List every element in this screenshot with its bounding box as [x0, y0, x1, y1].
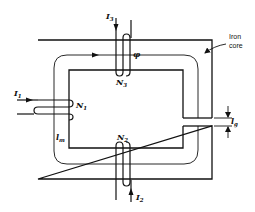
- current-i1-label: I1: [13, 88, 22, 99]
- winding-n1-label: N1: [75, 100, 87, 111]
- current-i1-arrow-icon: [26, 98, 33, 103]
- mean-length-label: lm: [56, 132, 65, 143]
- winding-n1-coil: [34, 100, 73, 120]
- winding-n2-label: N2: [116, 132, 128, 143]
- winding-n3: [114, 18, 132, 76]
- current-i3-arrow-icon: [114, 24, 119, 31]
- current-i3-label: I3: [105, 11, 114, 22]
- current-i2-label: I2: [135, 192, 144, 203]
- gap-dimension: [214, 106, 232, 138]
- current-i2-arrow-icon: [129, 188, 134, 195]
- core-outer-outline: [38, 40, 212, 179]
- winding-n3-label: N3: [115, 77, 127, 88]
- flux-arrow-icon: [92, 53, 99, 58]
- flux-label: φ: [133, 49, 141, 59]
- iron-core-label-line2: core: [229, 42, 243, 49]
- magnetic-circuit-diagram: Iron core φ I3 N3 I1 N1 lm N2 I2 lg: [0, 0, 255, 212]
- iron-core-label-line1: Iron: [229, 33, 241, 40]
- iron-core: [38, 40, 212, 179]
- winding-n1: [17, 98, 73, 121]
- gap-length-label: lg: [231, 116, 238, 128]
- core-callout-arrow: [205, 44, 226, 53]
